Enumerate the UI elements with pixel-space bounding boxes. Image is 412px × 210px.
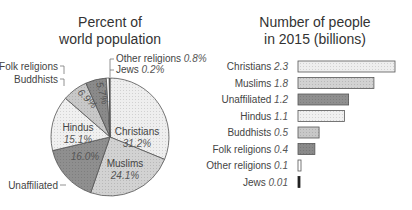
pie-label-folk-religions: Folk religions	[0, 61, 58, 72]
bar-row-muslims: Muslims 1.8	[235, 78, 374, 89]
pie-label-buddhists: Buddhists	[14, 74, 58, 85]
bar-row-hindus: Hindus 1.1	[240, 111, 344, 122]
bar-texture	[298, 144, 315, 155]
bar-row-unaffiliated: Unaffiliated 1.2	[221, 94, 348, 105]
bar-chart: Christians 2.3Muslims 1.8Unaffiliated 1.…	[206, 61, 395, 188]
bar-label-christians: Christians 2.3	[227, 61, 289, 72]
bar-row-christians: Christians 2.3	[227, 61, 395, 72]
bar-texture	[298, 111, 344, 122]
bar-label-unaffiliated: Unaffiliated 1.2	[221, 94, 288, 105]
bar-row-other-religions: Other religions 0.1	[206, 160, 301, 171]
bar-texture	[298, 94, 349, 105]
bar-texture	[298, 127, 319, 138]
bar-row-buddhists: Buddhists 0.5	[227, 127, 319, 138]
leader-line	[60, 66, 64, 74]
pie-label-unaffiliated: Unaffiliated	[8, 180, 58, 191]
bar-texture	[298, 78, 374, 89]
pie-value-muslims: 24.1%	[110, 170, 139, 181]
pie-value-hindus: 15.1%	[64, 134, 92, 145]
pie-label-jews: Jews 0.2%	[116, 64, 164, 75]
bar-label-hindus: Hindus 1.1	[240, 111, 288, 122]
pie-label-hindus: Hindus	[62, 122, 93, 133]
bar-row-folk-religions: Folk religions 0.4	[212, 144, 314, 155]
pie-value-christians: 31.2%	[123, 138, 151, 149]
bar-label-muslims: Muslims 1.8	[235, 78, 289, 89]
pie-value-unaffiliated: 16.0%	[71, 151, 99, 162]
bar-texture	[298, 61, 395, 72]
bar-row-jews: Jews 0.01	[243, 177, 300, 188]
pie-label-christians: Christians	[115, 126, 159, 137]
bar-label-buddhists: Buddhists 0.5	[227, 127, 288, 138]
bar-label-folk-religions: Folk religions 0.4	[212, 144, 288, 155]
bar-label-jews: Jews 0.01	[243, 177, 288, 188]
pie-label-muslims: Muslims	[107, 158, 144, 169]
charts-canvas: Christians31.2%Muslims24.1%16.0%Hindus15…	[0, 0, 412, 210]
bar-other-religions	[298, 160, 301, 171]
bar-jews	[298, 177, 300, 188]
leader-line	[60, 79, 64, 86]
bar-label-other-religions: Other religions 0.1	[206, 160, 288, 171]
pie-label-other-religions: Other religions 0.8%	[116, 53, 207, 64]
leader-line	[110, 59, 114, 77]
